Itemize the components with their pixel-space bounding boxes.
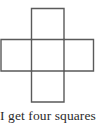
figure-caption: I get four squares [0, 107, 96, 124]
page-root: I get four squares [0, 0, 96, 127]
cross-figure-svg [0, 0, 96, 106]
cross-net-of-cube-figure [0, 0, 96, 106]
cross-outline-fill [1, 9, 94, 103]
